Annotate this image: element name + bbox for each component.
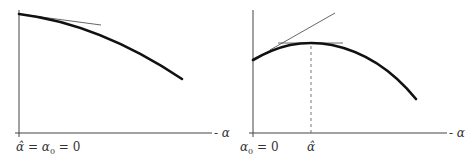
right-origin-label: α0 = 0 (240, 140, 279, 156)
right-panel: - α α0 = 0 α̂ (240, 10, 465, 156)
right-objective-curve (253, 43, 416, 99)
diagram-canvas: - α α̂ = α0 = 0 - α α0 = 0 α̂ (0, 0, 471, 163)
left-x-axis-label: - α (214, 126, 230, 140)
left-panel: - α α̂ = α0 = 0 (15, 10, 230, 156)
left-objective-curve (19, 14, 182, 79)
left-origin-label: α̂ = α0 = 0 (16, 140, 80, 156)
right-x-axis-label: - α (449, 126, 465, 140)
right-max-label: α̂ (307, 140, 315, 154)
